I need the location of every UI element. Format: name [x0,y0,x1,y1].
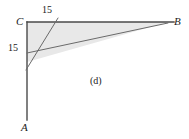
vertex-label-a: A [21,122,28,133]
measure-label-top: 15 [42,5,52,15]
measure-label-left: 15 [8,43,18,53]
figure-canvas [0,0,189,139]
part-label: (d) [90,76,102,86]
vertex-label-b: B [174,16,181,27]
vertex-label-c: C [16,16,23,27]
geometry-figure: C B A 15 15 (d) [0,0,189,139]
